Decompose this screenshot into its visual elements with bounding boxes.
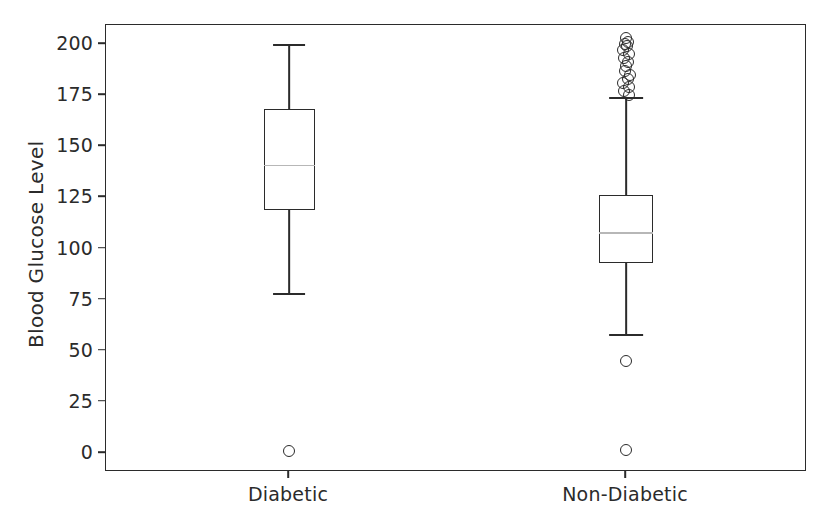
whisker-upper [288,44,290,109]
box-non-diabetic [599,195,653,262]
outlier-point [620,32,632,44]
y-axis-tick-mark [98,196,105,198]
y-axis-tick-label: 125 [56,185,93,207]
x-axis-tick-label-diabetic: Diabetic [248,483,328,505]
outlier-point [283,445,295,457]
y-axis-tick-mark [98,451,105,453]
whisker-upper [625,97,627,195]
whisker-cap-lower [273,293,305,295]
median-line [599,232,653,234]
x-axis-tick-mark [287,471,289,478]
x-axis-tick-mark [624,471,626,478]
y-axis-tick-label: 25 [68,390,93,412]
y-axis-tick-label: 200 [56,32,93,54]
y-axis-tick-mark [98,93,105,95]
median-line [264,165,315,167]
whisker-cap-upper [273,44,305,46]
y-axis-tick-label: 75 [68,288,93,310]
outlier-point [620,355,632,367]
y-axis-tick-mark [98,298,105,300]
whisker-lower [288,210,290,294]
y-axis-tick-label: 50 [68,339,93,361]
y-axis-tick-mark [98,144,105,146]
whisker-cap-lower [609,334,643,336]
y-axis-tick-mark [98,349,105,351]
y-axis-tick-mark [98,42,105,44]
box-diabetic [264,109,315,209]
whisker-lower [625,263,627,335]
y-axis-tick-label: 0 [81,441,93,463]
y-axis-label: Blood Glucose Level [24,140,48,347]
y-axis-tick-mark [98,247,105,249]
box-plot-figure: Blood Glucose Level 20017515012510075502… [0,0,832,528]
x-axis-tick-label-non-diabetic: Non-Diabetic [562,483,688,505]
y-axis-tick-label: 150 [56,134,93,156]
y-axis-tick-label: 175 [56,83,93,105]
y-axis-tick-mark [98,400,105,402]
y-axis-tick-label: 100 [56,237,93,259]
outlier-point [620,444,632,456]
plot-area [105,24,806,471]
